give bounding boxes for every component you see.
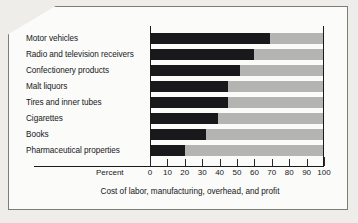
- axis-line-bottom: [34, 166, 324, 167]
- bar-segment-cost: [150, 49, 254, 60]
- axis-line-left: [150, 26, 151, 166]
- bar-total: [150, 129, 324, 140]
- bar-row: [150, 47, 324, 63]
- category-label: Tires and inner tubes: [26, 95, 148, 111]
- x-tick-label: 90: [302, 168, 311, 177]
- bar-total: [150, 81, 324, 92]
- bar-row: [150, 127, 324, 143]
- bar-total: [150, 49, 324, 60]
- bar-row: [150, 111, 324, 127]
- x-tick-label: 50: [233, 168, 242, 177]
- bar-row: [150, 79, 324, 95]
- x-tick: [237, 159, 238, 166]
- bar-total: [150, 97, 324, 108]
- bar-segment-cost: [150, 33, 270, 44]
- x-tick-label: 100: [317, 168, 330, 177]
- plot-area: [150, 31, 324, 159]
- category-label: Books: [26, 127, 148, 143]
- x-axis-title: Percent: [96, 168, 124, 177]
- bar-segment-cost: [150, 81, 228, 92]
- x-tick-label: 80: [285, 168, 294, 177]
- figure-caption: Cost of labor, manufacturing, overhead, …: [0, 187, 358, 196]
- bar-total: [150, 113, 324, 124]
- bar-segment-cost: [150, 113, 218, 124]
- bar-row: [150, 95, 324, 111]
- bar-segment-cost: [150, 65, 240, 76]
- x-tick: [254, 159, 255, 166]
- axis-line-right: [323, 26, 324, 166]
- category-label: Malt liquors: [26, 79, 148, 95]
- x-tick: [185, 159, 186, 166]
- x-tick: [167, 159, 168, 166]
- bar-row: [150, 31, 324, 47]
- x-axis-ticks: [150, 159, 324, 166]
- bar-segment-cost: [150, 129, 206, 140]
- x-tick-label: 0: [148, 168, 152, 177]
- bar-row: [150, 143, 324, 159]
- bar-total: [150, 65, 324, 76]
- x-tick-label: 30: [198, 168, 207, 177]
- category-label: Radio and television receivers: [26, 47, 148, 63]
- category-label: Confectionery products: [26, 63, 148, 79]
- caption-text: Cost of labor, manufacturing, overhead, …: [79, 187, 280, 196]
- x-tick-label: 20: [180, 168, 189, 177]
- x-axis-tick-labels: 0102030405060708090100: [150, 168, 324, 180]
- x-tick: [272, 159, 273, 166]
- x-tick: [307, 159, 308, 166]
- x-tick-label: 10: [163, 168, 172, 177]
- figure-container: Motor vehicles Radio and television rece…: [0, 0, 358, 223]
- bar-chart: Motor vehicles Radio and television rece…: [0, 0, 358, 223]
- bar-segment-cost: [150, 97, 228, 108]
- bar-segment-cost: [150, 145, 185, 156]
- bar-total: [150, 145, 324, 156]
- category-axis-labels: Motor vehicles Radio and television rece…: [26, 31, 148, 159]
- category-label: Motor vehicles: [26, 31, 148, 47]
- x-tick: [202, 159, 203, 166]
- category-label: Pharmaceutical properties: [26, 143, 148, 159]
- x-tick: [150, 157, 151, 166]
- bar-total: [150, 33, 324, 44]
- category-label: Cigarettes: [26, 111, 148, 127]
- x-tick: [289, 159, 290, 166]
- bar-row: [150, 63, 324, 79]
- x-tick-label: 40: [215, 168, 224, 177]
- x-tick-label: 70: [267, 168, 276, 177]
- x-tick: [220, 159, 221, 166]
- x-tick-label: 60: [250, 168, 259, 177]
- x-tick: [324, 157, 325, 166]
